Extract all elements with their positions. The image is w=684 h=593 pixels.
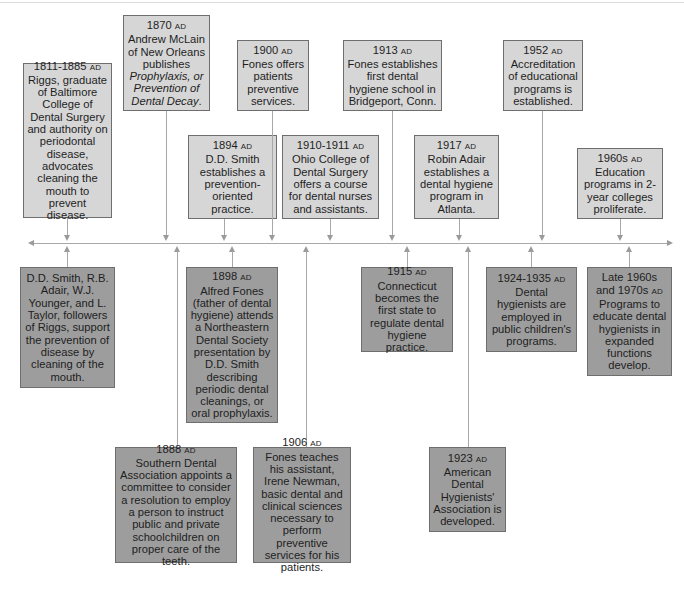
event-era: AD [90,63,102,72]
event-date: 1915 [387,265,412,277]
arrow-down-icon [456,235,462,241]
arrow-down-icon [539,235,545,241]
timeline-axis [32,243,668,244]
event-era: AD [240,273,252,282]
event-1906: 1906 AD Fones teaches his assistant, Ire… [253,447,351,563]
event-era: AD [551,47,563,56]
event-date: 1900 [253,44,278,56]
event-text: Alfred Fones (father of dental hygiene) … [190,285,274,420]
event-text: D.D. Smith, R.B. Adair, W.J. Younger, an… [24,272,111,383]
arrow-down-icon [327,235,333,241]
event-date: 1910-1911 [297,139,350,151]
event-era: AD [415,268,427,277]
arrow-down-icon [269,235,275,241]
event-1923: 1923 AD American Dental Hygienists' Asso… [429,447,506,532]
event-text: Fones teaches his assistant, Irene Newma… [257,451,347,574]
event-text: Riggs, graduate of Baltimore College of … [27,74,108,222]
event-date: 1952 [523,44,548,56]
event-era: AD [476,455,488,464]
connector [224,219,225,236]
event-1952: 1952 AD Accreditation of educational pro… [503,40,583,111]
event-text: American Dental Hygienists' Association … [433,466,502,527]
event-era: AD [353,142,365,151]
event-text: Connecticut becomes the first state to r… [365,280,449,354]
event-era: AD [241,142,253,151]
event-text: Andrew McLain of New Orleans publishes [127,33,206,70]
event-text: Fones offers patients preventive service… [241,58,305,107]
publication-title: Prophylaxis, or Prevention of Dental Dec… [130,70,204,107]
event-1811-1885: 1811-1885 AD Riggs, graduate of Baltimor… [23,63,112,218]
event-date: 1870 [147,19,172,31]
event-era: AD [631,155,643,164]
event-date: Late 1960s and 1970s [596,271,657,295]
event-era: AD [175,22,187,31]
event-date: 1894 [213,139,238,151]
event-text: Ohio College of Dental Surgery offers a … [286,153,375,214]
event-date: 1913 [373,44,398,56]
arrow-down-icon [64,235,70,241]
event-late-1960s-1970s: Late 1960s and 1970s AD Programs to educ… [587,267,672,376]
event-1913: 1913 AD Fones establishes first dental h… [343,40,442,111]
event-1924-1935: 1924-1935 AD Dental hygienists are emplo… [486,267,577,352]
connector [166,111,167,236]
event-text: Programs to educate dental hygienists in… [591,298,668,372]
event-text: Accreditation of educational programs is… [507,58,579,107]
event-date: 1811-1885 [34,60,87,72]
event-date: 1960s [597,152,627,164]
punctuation: . [199,95,202,107]
arrow-left-icon [28,240,34,246]
event-era: AD [465,142,477,151]
arrow-down-icon [389,235,395,241]
connector [468,251,469,447]
event-1870: 1870 AD Andrew McLain of New Orleans pub… [123,15,210,111]
connector [392,111,393,236]
connector [177,251,178,447]
event-date: 1898 [212,270,237,282]
top-border [0,2,684,3]
connector [67,218,68,236]
event-1900: 1900 AD Fones offers patients preventive… [237,40,309,111]
connector [330,219,331,236]
connector [306,251,307,447]
connector [459,219,460,236]
event-date: 1906 [282,436,307,448]
arrow-right-icon [667,240,673,246]
event-1910-1911: 1910-1911 AD Ohio College of Dental Surg… [282,135,379,219]
event-1915: 1915 AD Connecticut becomes the first st… [361,267,453,352]
connector [272,111,273,236]
event-text: Southern Dental Association appoints a c… [119,457,233,568]
event-era: AD [554,275,566,284]
event-date: 1888 [156,443,181,455]
event-text: Robin Adair establishes a dental hygiene… [418,153,495,214]
event-era: AD [401,47,413,56]
event-1894: 1894 AD D.D. Smith establishes a prevent… [188,135,277,219]
event-date: 1923 [448,452,473,464]
connector [629,251,630,267]
event-era: AD [184,446,196,455]
event-text: D.D. Smith establishes a prevention-orie… [192,153,273,214]
event-1898: 1898 AD Alfred Fones (father of dental h… [186,267,278,423]
connector [67,251,68,267]
connector [620,219,621,236]
event-1888: 1888 AD Southern Dental Association appo… [115,447,237,563]
arrow-down-icon [617,235,623,241]
event-riggs-followers: D.D. Smith, R.B. Adair, W.J. Younger, an… [20,267,115,388]
event-1917: 1917 AD Robin Adair establishes a dental… [414,135,499,219]
connector [232,251,233,267]
event-text: Fones establishes first dental hygiene s… [347,58,438,107]
event-era: AD [281,47,293,56]
event-1960s: 1960s AD Education programs in 2-year co… [577,148,663,219]
arrow-down-icon [163,235,169,241]
connector [531,251,532,267]
event-era: AD [310,439,322,448]
arrow-down-icon [221,235,227,241]
event-date: 1917 [437,139,462,151]
event-date: 1924-1935 [497,272,551,284]
event-text: Dental hygienists are employed in public… [490,286,573,347]
event-text: Education programs in 2-year colleges pr… [581,166,659,215]
event-era: AD [651,287,663,296]
connector [542,111,543,236]
